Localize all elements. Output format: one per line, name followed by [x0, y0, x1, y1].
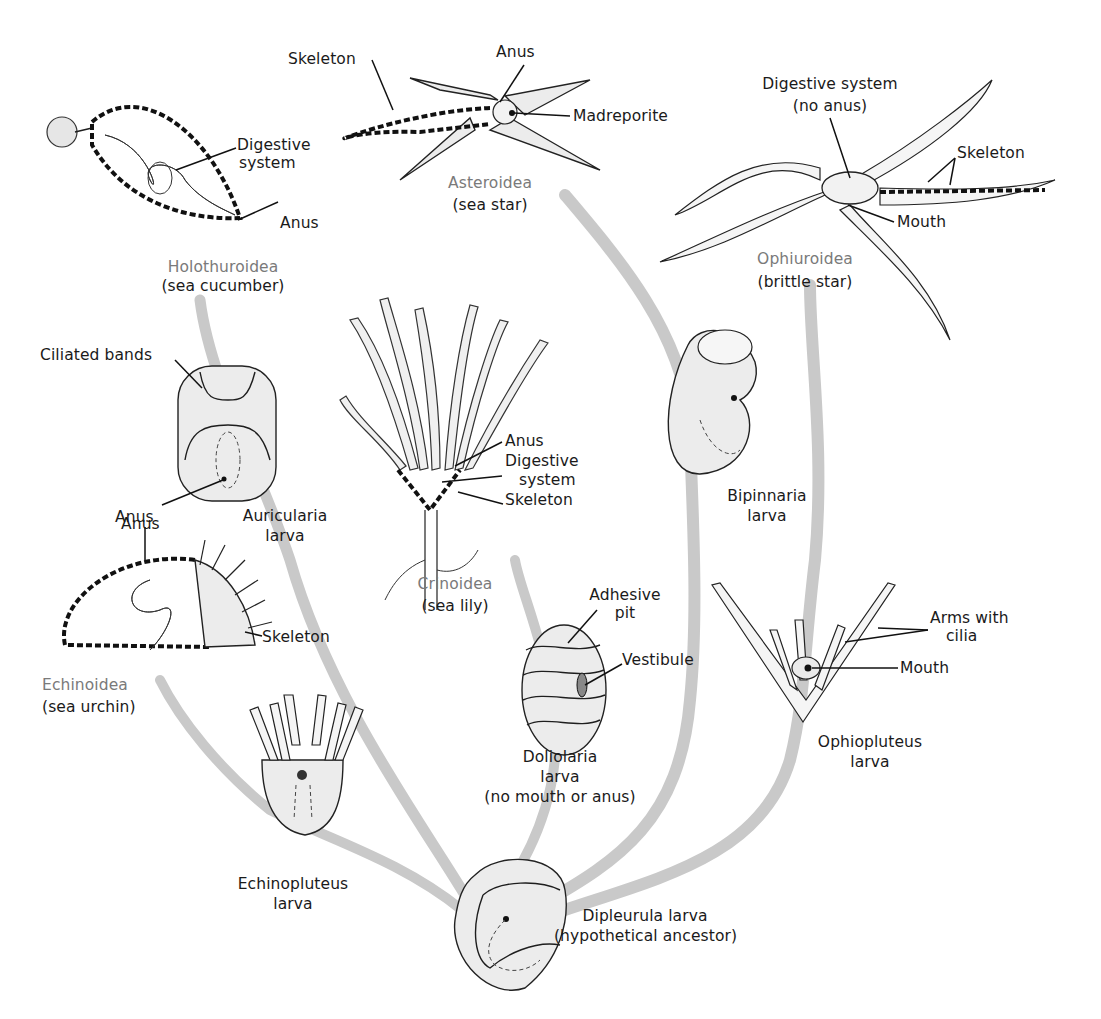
label-holothuroidea-anus: Anus [280, 214, 319, 233]
common-name-asteroidea: (sea star) [420, 196, 560, 215]
label-asteroidea-madreporite: Madreporite [573, 107, 668, 126]
label-ophiopluteus-arms-with: Arms with [930, 609, 1009, 628]
common-name-ophiuroidea: (brittle star) [735, 273, 875, 292]
larva-name-ophiopluteus: Ophiopluteus [800, 733, 940, 752]
label-doliolaria-adhesive: Adhesive [575, 586, 675, 605]
label-ophiopluteus-cilia: cilia [946, 627, 977, 646]
label-crinoidea-system: system [519, 471, 576, 490]
larva-suffix-doliolaria: larva [485, 768, 635, 787]
larva-name-echinopluteus: Echinopluteus [218, 875, 368, 894]
label-ophiuroidea-no-anus: (no anus) [750, 97, 910, 116]
ancestor-note: (hypothetical ancestor) [528, 927, 763, 946]
label-asteroidea-skeleton: Skeleton [288, 50, 356, 69]
sea-star-illustration [344, 60, 600, 180]
larva-note-doliolaria: (no mouth or anus) [460, 788, 660, 807]
label-auricularia-ciliated-bands: Ciliated bands [40, 346, 152, 365]
class-name-echinoidea: Echinoidea [42, 676, 128, 695]
label-asteroidea-anus: Anus [496, 43, 535, 62]
label-ophiopluteus-mouth: Mouth [900, 659, 949, 678]
label-echinoidea-skeleton: Skeleton [262, 628, 330, 647]
larva-name-auricularia: Auricularia [225, 507, 345, 526]
class-name-crinoidea: Crinoidea [395, 575, 515, 594]
label-ophiuroidea-skeleton: Skeleton [957, 144, 1025, 163]
ancestor-name-dipleurula: Dipleurula larva [545, 907, 745, 926]
class-name-holothuroidea: Holothuroidea [128, 258, 318, 277]
common-name-echinoidea: (sea urchin) [42, 698, 136, 717]
label-ophiuroidea-mouth: Mouth [897, 213, 946, 232]
larva-suffix-ophiopluteus: larva [800, 753, 940, 772]
label-echinoidea-anus: Anus [121, 515, 160, 534]
common-name-holothuroidea: (sea cucumber) [128, 277, 318, 296]
label-crinoidea-digestive: Digestive [505, 452, 579, 471]
larva-suffix-bipinnaria: larva [712, 507, 822, 526]
class-name-ophiuroidea: Ophiuroidea [735, 250, 875, 269]
phylogeny-branches [160, 195, 818, 915]
larva-suffix-auricularia: larva [225, 527, 345, 546]
larva-name-doliolaria: Doliolaria [485, 748, 635, 767]
label-doliolaria-vestibule: Vestibule [622, 651, 694, 670]
larva-suffix-echinopluteus: larva [218, 895, 368, 914]
label-holothuroidea-system: system [239, 154, 296, 173]
echinopluteus-larva-illustration [250, 695, 363, 835]
auricularia-larva-illustration [162, 360, 276, 505]
label-crinoidea-anus: Anus [505, 432, 544, 451]
brittle-star-illustration [660, 80, 1055, 340]
larva-name-bipinnaria: Bipinnaria [712, 487, 822, 506]
label-crinoidea-skeleton: Skeleton [505, 491, 573, 510]
label-doliolaria-pit: pit [575, 604, 675, 623]
bipinnaria-larva-illustration [668, 330, 756, 474]
ophiopluteus-larva-illustration [712, 583, 928, 722]
class-name-asteroidea: Asteroidea [420, 174, 560, 193]
label-ophiuroidea-digestive-system: Digestive system [750, 75, 910, 94]
label-holothuroidea-digestive: Digestive [237, 136, 311, 155]
common-name-crinoidea: (sea lily) [395, 597, 515, 616]
